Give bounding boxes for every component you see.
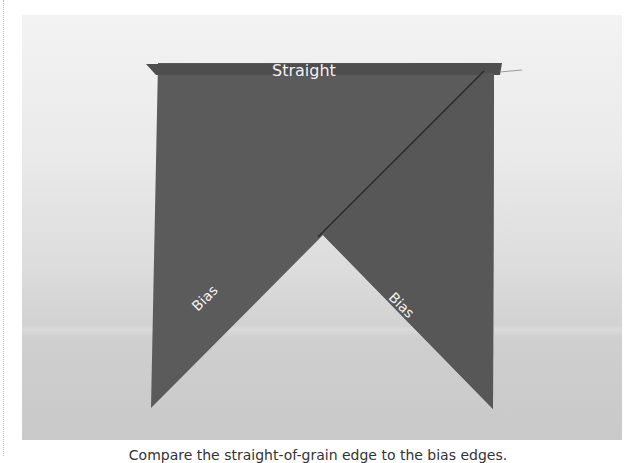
page-edge-dotted-line	[3, 0, 4, 456]
label-straight: Straight	[272, 61, 336, 80]
figure-caption: Compare the straight-of-grain edge to th…	[0, 447, 636, 463]
loose-thread	[500, 70, 522, 72]
